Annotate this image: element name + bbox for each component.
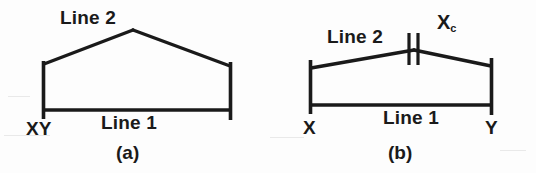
panel-b-right-endpoint-label: Y — [485, 118, 498, 137]
panel-b-line2-right-slope — [414, 50, 491, 66]
panel-b-apex-xc-subscript: c — [450, 22, 456, 34]
panel-b-line2-label: Line 2 — [327, 27, 383, 46]
figure-container: Line 2 Line 1 XY (a) Line 2 Line 1 Xc X … — [0, 0, 536, 173]
panel-a-caption: (a) — [116, 143, 139, 162]
panel-b-apex-xc-base: X — [437, 11, 450, 33]
panel-b-line2-left-slope — [311, 50, 414, 68]
panel-a-left-endpoint-label: XY — [26, 119, 52, 138]
panel-b-apex-xc-label: Xc — [437, 12, 456, 32]
panel-a-line2-label: Line 2 — [60, 8, 116, 27]
panel-b-left-endpoint-label: X — [303, 118, 316, 137]
panel-b-line1-label: Line 1 — [383, 108, 439, 127]
panel-a-line2-left-slope — [44, 30, 133, 64]
panel-b-caption: (b) — [388, 143, 412, 162]
panel-a-drawing — [43, 30, 231, 120]
panel-a-line1-label: Line 1 — [101, 113, 157, 132]
panel-a-line2-right-slope — [133, 30, 230, 66]
